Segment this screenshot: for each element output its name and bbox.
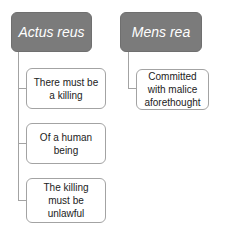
actus-reus-item-1-label: There must be a killing xyxy=(33,76,99,102)
actus-reus-title: Actus reus xyxy=(18,24,84,40)
actus-reus-item-3-label: The killing must be unlawful xyxy=(33,181,99,220)
mens-rea-title: Mens rea xyxy=(132,24,190,40)
mens-rea-connector-vertical xyxy=(128,52,129,89)
actus-reus-item-1: There must be a killing xyxy=(26,68,106,109)
mens-rea-header: Mens rea xyxy=(120,12,202,52)
actus-reus-connector-vertical xyxy=(18,52,19,201)
mens-rea-item-1: Committed with malice aforethought xyxy=(136,69,209,110)
mens-rea-item-1-label: Committed with malice aforethought xyxy=(140,70,205,109)
actus-reus-header: Actus reus xyxy=(11,12,92,52)
actus-reus-item-3: The killing must be unlawful xyxy=(26,178,106,223)
actus-reus-item-2: Of a human being xyxy=(26,123,106,164)
actus-reus-item-2-label: Of a human being xyxy=(33,131,99,157)
